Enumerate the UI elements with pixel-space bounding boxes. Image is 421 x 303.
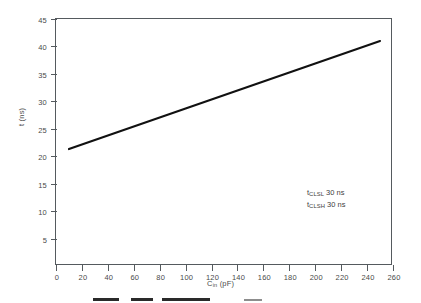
x-tick-label: 240: [362, 273, 375, 282]
x-tick-mark: 200: [315, 265, 316, 271]
annotation-block: tCLSL 30 ns tCLSH 30 ns: [307, 188, 345, 211]
y-tick-mark: 35: [51, 74, 57, 75]
y-tick-label: 5: [43, 235, 47, 244]
y-tick-label: 30: [38, 98, 47, 107]
y-tick-mark: 5: [51, 239, 57, 240]
y-axis-title: t (ns): [17, 108, 26, 126]
x-tick-label: 180: [284, 273, 297, 282]
y-tick-label: 20: [38, 153, 47, 162]
annotation-tclsh-subscript: CLSH: [309, 203, 325, 209]
scan-artifact-bar-4: [244, 299, 262, 301]
x-tick-mark: 140: [237, 265, 238, 271]
y-tick-label: 35: [38, 70, 47, 79]
x-tick-label: 100: [180, 273, 193, 282]
y-tick-mark: 20: [51, 156, 57, 157]
chart-figure: t (ns) Cin (pF) 51015202530354045 020406…: [0, 0, 421, 303]
series-line-t-vs-cin: [69, 41, 380, 149]
x-tick-label: 260: [387, 273, 400, 282]
annotation-tclsh: tCLSH 30 ns: [307, 200, 345, 212]
x-tick-label: 0: [55, 273, 59, 282]
y-tick-mark: 25: [51, 129, 57, 130]
x-tick-mark: 100: [186, 265, 187, 271]
x-tick-mark: 60: [134, 265, 135, 271]
x-tick-label: 60: [130, 273, 139, 282]
x-tick-label: 40: [104, 273, 113, 282]
x-tick-mark: 260: [393, 265, 394, 271]
x-tick-mark: 220: [341, 265, 342, 271]
x-tick-mark: 160: [263, 265, 264, 271]
scan-artifact-bar-1: [93, 298, 119, 301]
x-tick-mark: 20: [82, 265, 83, 271]
y-tick-label: 10: [38, 208, 47, 217]
annotation-tclsl-subscript: CLSL: [309, 191, 324, 197]
y-tick-mark: 15: [51, 184, 57, 185]
x-tick-mark: 180: [289, 265, 290, 271]
y-axis-title-unit: (ns): [17, 108, 26, 124]
scan-artifact-bar-3: [162, 298, 210, 301]
x-tick-label: 20: [79, 273, 88, 282]
x-tick-mark: 240: [367, 265, 368, 271]
x-tick-mark: 80: [160, 265, 161, 271]
x-tick-label: 160: [258, 273, 271, 282]
y-tick-mark: 10: [51, 211, 57, 212]
annotation-tclsl-value: 30 ns: [326, 188, 344, 197]
x-tick-label: 200: [310, 273, 323, 282]
x-tick-mark: 40: [108, 265, 109, 271]
data-series-line: [56, 19, 393, 266]
x-tick-label: 80: [156, 273, 165, 282]
y-tick-mark: 45: [51, 19, 57, 20]
y-tick-label: 40: [38, 43, 47, 52]
x-tick-label: 140: [232, 273, 245, 282]
y-tick-label: 15: [38, 180, 47, 189]
plot-frame: 51015202530354045 0204060801001201401601…: [55, 18, 392, 265]
plot-area: [56, 19, 391, 264]
x-tick-label: 220: [336, 273, 349, 282]
y-tick-label: 25: [38, 125, 47, 134]
x-tick-mark: 120: [212, 265, 213, 271]
y-axis-title-base: t: [17, 124, 26, 126]
y-tick-label: 45: [38, 16, 47, 25]
annotation-tclsl: tCLSL 30 ns: [307, 188, 345, 200]
y-tick-mark: 40: [51, 46, 57, 47]
scan-artifact-bar-2: [131, 298, 153, 301]
annotation-tclsh-value: 30 ns: [327, 200, 345, 209]
y-tick-mark: 30: [51, 101, 57, 102]
x-tick-mark: 0: [56, 265, 57, 271]
x-tick-label: 120: [206, 273, 219, 282]
